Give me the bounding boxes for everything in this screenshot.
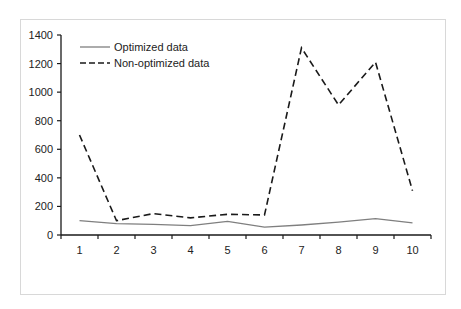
y-axis: 0200400600800100012001400 (29, 29, 61, 241)
x-tick-label: 5 (224, 244, 230, 256)
legend-label-non-optimized: Non-optimized data (114, 57, 210, 69)
x-tick-label: 6 (261, 244, 267, 256)
legend: Optimized data Non-optimized data (80, 41, 210, 69)
series-line-optimized (80, 219, 413, 228)
y-tick-label: 0 (47, 229, 53, 241)
series-lines (80, 48, 413, 227)
y-tick-label: 600 (35, 143, 53, 155)
series-line-non-optimized (80, 48, 413, 221)
x-tick-label: 1 (76, 244, 82, 256)
y-tick-label: 200 (35, 200, 53, 212)
x-tick-label: 4 (187, 244, 193, 256)
y-tick-label: 1000 (29, 86, 53, 98)
y-tick-label: 1200 (29, 58, 53, 70)
legend-label-optimized: Optimized data (114, 41, 189, 53)
y-tick-label: 800 (35, 115, 53, 127)
x-axis: 12345678910 (61, 235, 431, 256)
y-tick-label: 400 (35, 172, 53, 184)
x-tick-label: 7 (298, 244, 304, 256)
x-tick-label: 8 (335, 244, 341, 256)
line-chart: 0200400600800100012001400 12345678910 Op… (0, 0, 461, 309)
x-tick-label: 9 (372, 244, 378, 256)
x-tick-label: 10 (406, 244, 418, 256)
y-tick-label: 1400 (29, 29, 53, 41)
x-tick-label: 3 (150, 244, 156, 256)
x-tick-label: 2 (113, 244, 119, 256)
